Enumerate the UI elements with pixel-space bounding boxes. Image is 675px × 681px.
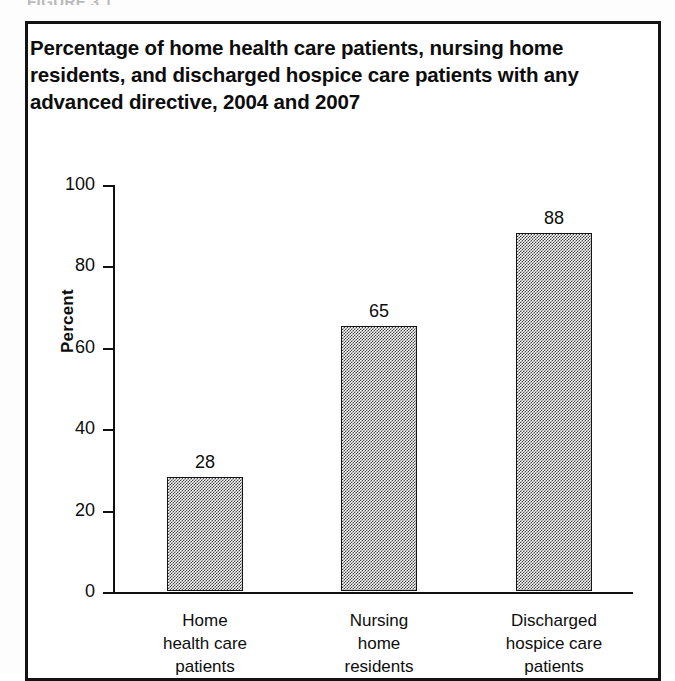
x-category-label-2: Discharged hospice care patients [474, 609, 634, 678]
x-axis-line [113, 592, 633, 594]
y-tick-100: 100 [103, 185, 114, 187]
y-tick-label-40: 40 [75, 418, 95, 438]
bar-home-health-care-patients[interactable]: 28 [167, 477, 243, 591]
plot-area: 0 20 40 60 80 100 Percent 28 65 88 Home … [114, 185, 633, 592]
y-tick-60: 60 [103, 348, 114, 350]
y-tick-label-100: 100 [65, 174, 95, 194]
chart-title: Percentage of home health care patients,… [30, 34, 590, 115]
x-category-label-0: Home health care patients [125, 609, 285, 678]
bar-value-label-0: 28 [195, 452, 215, 472]
y-tick-80: 80 [103, 266, 114, 268]
y-tick-label-0: 0 [85, 581, 95, 601]
bar-nursing-home-residents[interactable]: 65 [341, 326, 417, 591]
figure-number-label: FIGURE 3.1 [27, 0, 113, 5]
bar-value-label-1: 65 [369, 301, 389, 321]
y-tick-40: 40 [103, 429, 114, 431]
y-tick-20: 20 [103, 511, 114, 513]
y-axis-title: Percent [58, 289, 78, 353]
bar-discharged-hospice-care-patients[interactable]: 88 [516, 233, 592, 591]
y-axis-line [113, 185, 115, 593]
y-tick-label-20: 20 [75, 500, 95, 520]
y-tick-0: 0 [103, 592, 114, 594]
bar-value-label-2: 88 [544, 208, 564, 228]
x-category-label-1: Nursing home residents [299, 609, 459, 678]
y-tick-label-80: 80 [75, 255, 95, 275]
